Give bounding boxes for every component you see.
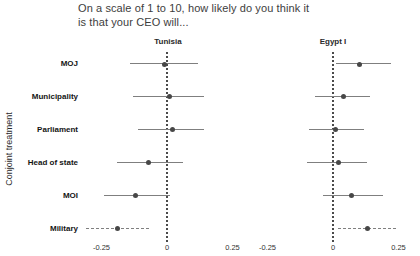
estimate-point bbox=[146, 160, 151, 165]
estimate-point bbox=[336, 160, 341, 165]
estimate-point bbox=[365, 226, 370, 231]
zero-reference-line bbox=[332, 52, 334, 242]
facet-label-egypt-i: Egypt I bbox=[320, 37, 347, 46]
estimate-point bbox=[341, 94, 346, 99]
estimate-point bbox=[115, 226, 120, 231]
chart-title: On a scale of 1 to 10, how likely do you… bbox=[78, 2, 309, 29]
chart-title-line-2: is that your CEO will... bbox=[78, 16, 309, 30]
category-label-moj: MOJ bbox=[0, 59, 78, 68]
estimate-point bbox=[162, 62, 167, 67]
coefficient-plot: On a scale of 1 to 10, how likely do you… bbox=[0, 0, 420, 256]
estimate-point bbox=[167, 94, 172, 99]
x-tick-label: 0.25 bbox=[384, 243, 414, 252]
estimate-point bbox=[349, 193, 354, 198]
category-label-military: Military bbox=[0, 224, 78, 233]
category-label-head-of-state: Head of state bbox=[0, 158, 78, 167]
estimate-point bbox=[333, 127, 338, 132]
category-label-parliament: Parliament bbox=[0, 125, 78, 134]
x-tick-label: -0.25 bbox=[87, 243, 117, 252]
x-tick-label: 0 bbox=[152, 243, 182, 252]
estimate-point bbox=[133, 193, 138, 198]
estimate-point bbox=[170, 127, 175, 132]
y-axis-title: Conjoint treatment bbox=[4, 94, 14, 204]
x-tick-label: -0.25 bbox=[253, 243, 283, 252]
ci-whisker bbox=[336, 63, 391, 64]
chart-title-line-1: On a scale of 1 to 10, how likely do you… bbox=[78, 2, 309, 16]
x-tick-label: 0.25 bbox=[218, 243, 248, 252]
x-tick-label: 0 bbox=[318, 243, 348, 252]
category-label-municipality: Municipality bbox=[0, 92, 78, 101]
facet-label-tunisia: Tunisia bbox=[154, 37, 181, 46]
estimate-point bbox=[357, 62, 362, 67]
category-label-moi: MOI bbox=[0, 191, 78, 200]
zero-reference-line bbox=[166, 52, 168, 242]
